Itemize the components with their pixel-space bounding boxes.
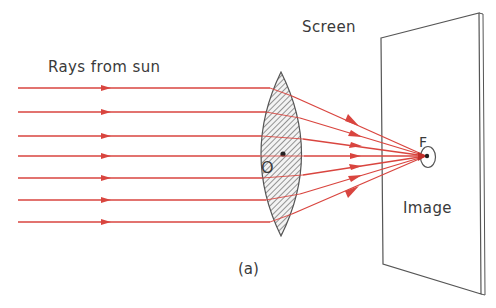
image-label: Image <box>403 199 452 217</box>
convex-lens <box>261 72 302 236</box>
incoming-rays <box>18 88 270 222</box>
optical-center-label: O <box>261 158 274 177</box>
figure-caption: (a) <box>238 260 259 278</box>
screen <box>381 13 485 295</box>
rays-label: Rays from sun <box>48 58 160 76</box>
screen-label: Screen <box>302 18 356 36</box>
incoming-ray-arrows <box>101 85 111 225</box>
focal-point-label: F <box>419 134 427 150</box>
lens-diagram: Rays from sun Screen F O Image (a) <box>0 0 496 308</box>
focus-dot <box>425 154 429 158</box>
